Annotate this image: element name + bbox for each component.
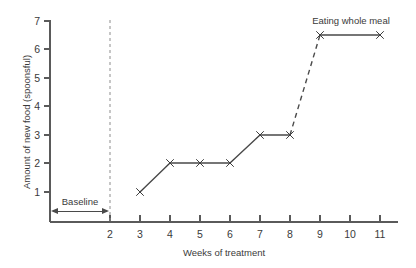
x-axis-ticks bbox=[110, 215, 380, 222]
x-tick-label-9: 9 bbox=[317, 228, 323, 240]
data-point-week-3 bbox=[137, 189, 144, 196]
x-tick-label-8: 8 bbox=[287, 228, 293, 240]
line-chart: 1 2 3 4 5 6 7 2 3 4 5 6 7 bbox=[0, 0, 416, 268]
x-tick-label-7: 7 bbox=[257, 228, 263, 240]
x-axis-title: Weeks of treatment bbox=[183, 247, 266, 258]
baseline-phase-arrow bbox=[51, 208, 109, 214]
y-tick-label-3: 3 bbox=[34, 129, 40, 141]
x-tick-label-5: 5 bbox=[197, 228, 203, 240]
x-tick-label-11: 11 bbox=[375, 228, 386, 240]
y-axis-title: Amount of new food (spoonsful) bbox=[21, 55, 32, 189]
y-axis-ticks bbox=[44, 21, 50, 192]
y-tick-label-2: 2 bbox=[34, 157, 40, 169]
x-tick-label-10: 10 bbox=[344, 228, 356, 240]
baseline-phase-label: Baseline bbox=[62, 196, 98, 207]
y-tick-label-6: 6 bbox=[34, 43, 40, 55]
baseline-arrow-head-right bbox=[102, 208, 109, 214]
x-tick-label-4: 4 bbox=[167, 228, 173, 240]
y-axis-tick-labels: 1 2 3 4 5 6 7 bbox=[34, 15, 40, 198]
x-axis-tick-labels: 2 3 4 5 6 7 8 9 10 11 bbox=[107, 228, 386, 240]
data-line-segment-weeks-3-to-8 bbox=[140, 135, 290, 192]
chart-container: 1 2 3 4 5 6 7 2 3 4 5 6 7 bbox=[0, 0, 416, 268]
x-tick-label-3: 3 bbox=[137, 228, 143, 240]
y-tick-label-4: 4 bbox=[34, 100, 40, 112]
y-tick-label-1: 1 bbox=[34, 186, 40, 198]
data-line-segment-weeks-8-to-9 bbox=[290, 35, 320, 135]
y-tick-label-7: 7 bbox=[34, 15, 40, 27]
x-tick-label-2: 2 bbox=[107, 228, 113, 240]
y-tick-label-5: 5 bbox=[34, 72, 40, 84]
annotation-eating-whole-meal: Eating whole meal bbox=[312, 15, 390, 26]
data-point-markers bbox=[137, 32, 384, 196]
baseline-arrow-head-left bbox=[51, 208, 58, 214]
x-tick-label-6: 6 bbox=[227, 228, 233, 240]
